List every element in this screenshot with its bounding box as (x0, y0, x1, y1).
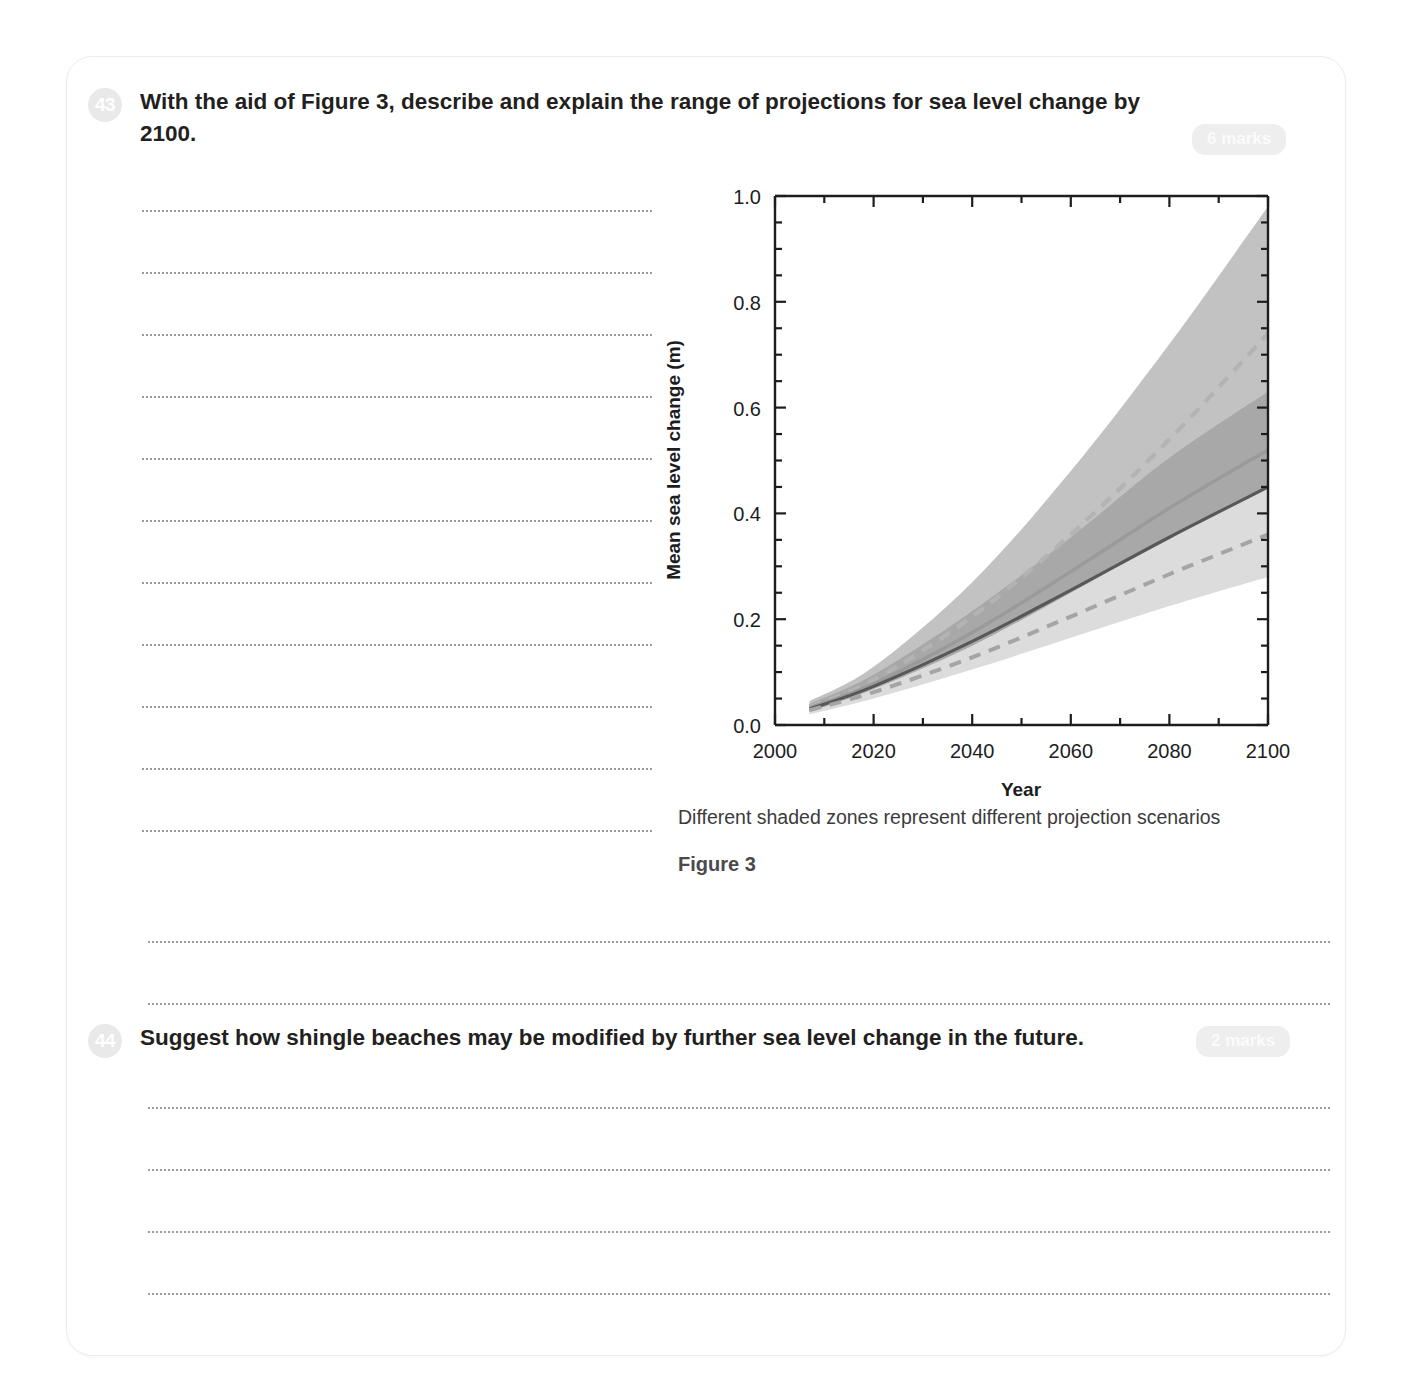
answer-line-q44-1[interactable] (148, 1107, 1330, 1109)
figure-caption: Different shaded zones represent differe… (678, 806, 1220, 829)
y-tick-label-0.4: 0.4 (733, 503, 761, 525)
y-axis-title: Mean sea level change (m) (663, 340, 684, 580)
question-43-marks-badge: 6 marks (1192, 124, 1286, 155)
answer-line-q43-9[interactable] (142, 706, 652, 708)
figure-3-chart: 200020202040206020802100 0.00.20.40.60.8… (612, 172, 1312, 812)
y-tick-label-0.0: 0.0 (733, 715, 761, 737)
y-tick-label-0.6: 0.6 (733, 398, 761, 420)
question-43-text: With the aid of Figure 3, describe and e… (140, 86, 1150, 150)
y-tick-labels-group: 0.00.20.40.60.81.0 (733, 186, 761, 737)
figure-label: Figure 3 (678, 853, 756, 876)
x-tick-label-2060: 2060 (1049, 740, 1094, 762)
answer-line-q44-4[interactable] (148, 1293, 1330, 1295)
x-tick-label-2000: 2000 (753, 740, 798, 762)
question-44-number: 44 (88, 1024, 122, 1058)
y-tick-label-0.8: 0.8 (733, 292, 761, 314)
answer-line-q44-3[interactable] (148, 1231, 1330, 1233)
x-axis-title: Year (1001, 779, 1042, 800)
answer-line-q43-6[interactable] (142, 520, 652, 522)
answer-line-q43-12[interactable] (148, 941, 1330, 943)
x-tick-label-2100: 2100 (1246, 740, 1291, 762)
answer-line-q43-1[interactable] (142, 210, 652, 212)
x-tick-label-2040: 2040 (950, 740, 995, 762)
x-tick-label-2020: 2020 (851, 740, 896, 762)
answer-line-q43-5[interactable] (142, 458, 652, 460)
answer-line-q44-2[interactable] (148, 1169, 1330, 1171)
question-43-row: 43 With the aid of Figure 3, describe an… (88, 86, 1150, 150)
answer-line-q43-8[interactable] (142, 644, 652, 646)
answer-line-q43-13[interactable] (148, 1003, 1330, 1005)
answer-line-q43-4[interactable] (142, 396, 652, 398)
question-43-number: 43 (88, 88, 122, 122)
answer-line-q43-3[interactable] (142, 334, 652, 336)
question-44-row: 44 Suggest how shingle beaches may be mo… (88, 1022, 1084, 1058)
question-44-text: Suggest how shingle beaches may be modif… (140, 1022, 1084, 1054)
x-tick-labels-group: 200020202040206020802100 (753, 740, 1291, 762)
y-tick-label-0.2: 0.2 (733, 609, 761, 631)
answer-line-q43-2[interactable] (142, 272, 652, 274)
x-tick-label-2080: 2080 (1147, 740, 1192, 762)
answer-line-q43-11[interactable] (142, 830, 652, 832)
answer-line-q43-10[interactable] (142, 768, 652, 770)
question-44-marks-badge: 2 marks (1196, 1026, 1290, 1057)
answer-line-q43-7[interactable] (142, 582, 652, 584)
y-tick-label-1.0: 1.0 (733, 186, 761, 208)
